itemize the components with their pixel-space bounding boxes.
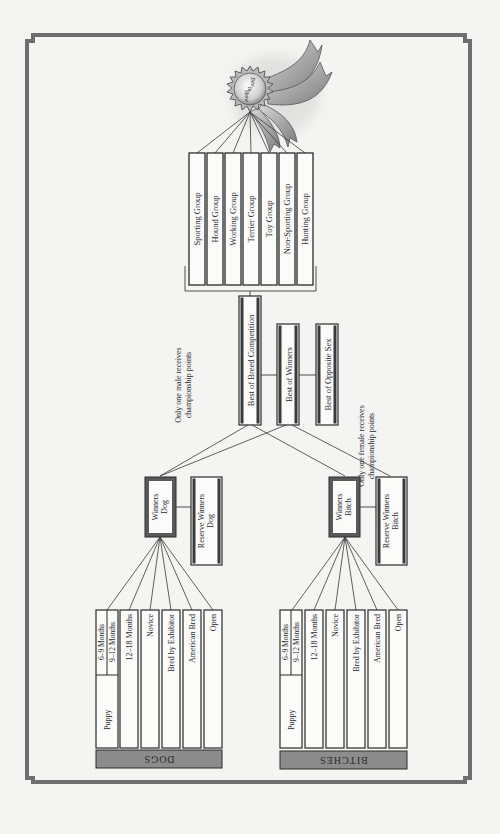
- best-in-show-rosette-icon: Best In Show: [227, 40, 332, 152]
- svg-text:championship points: championship points: [367, 413, 376, 479]
- svg-text:Reserve Winners: Reserve Winners: [197, 494, 206, 548]
- winners-connectors: [160, 425, 390, 476]
- svg-text:Novice: Novice: [146, 614, 155, 638]
- bitch-class-6-9: 6–9 Months: [281, 624, 290, 660]
- dog-class-9-12: 9–12 Months: [108, 622, 117, 662]
- group-toy: Toy Group: [261, 153, 277, 285]
- best-of-winners-label: Best of Winners: [284, 347, 294, 402]
- dog-show-diagram: Best In Show Sporting Group Hound Group …: [0, 0, 500, 834]
- svg-text:Bred by Exhibitor: Bred by Exhibitor: [167, 614, 176, 672]
- dog-class-6-9: 6–9 Months: [97, 624, 106, 660]
- male-note: Only one male receives championship poin…: [174, 347, 193, 422]
- group-label: Hound Group: [210, 196, 220, 243]
- svg-text:Bitch: Bitch: [391, 512, 400, 529]
- svg-text:12–18 Months: 12–18 Months: [125, 614, 134, 660]
- group-terrier: Terrier Group: [243, 153, 259, 285]
- dogs-classes: 6–9 Months 9–12 Months Puppy 12–18 Month…: [96, 610, 222, 748]
- svg-text:Only one female receives: Only one female receives: [357, 405, 366, 487]
- bitches-label: BITCHES: [319, 755, 368, 766]
- svg-text:championship points: championship points: [184, 352, 193, 418]
- group-label: Non-Sporting Group: [282, 184, 292, 255]
- svg-text:Open: Open: [209, 614, 218, 631]
- dog-class-puppy-label: Puppy: [103, 710, 112, 730]
- bitch-class-9-12: 9–12 Months: [292, 622, 301, 662]
- svg-text:Dog: Dog: [160, 500, 169, 514]
- winners-dog-box: Winners Dog: [145, 477, 176, 537]
- group-non-sporting: Non-Sporting Group: [279, 153, 295, 285]
- group-hunting: Hunting Group: [297, 153, 313, 285]
- group-label: Working Group: [228, 192, 238, 245]
- award-line-3: Show: [244, 90, 250, 102]
- svg-text:Bitch: Bitch: [344, 498, 353, 515]
- group-label: Sporting Group: [192, 192, 202, 245]
- bitches-section-band: BITCHES: [280, 751, 407, 769]
- best-of-breed-box: Best of Breed Competition: [239, 296, 261, 425]
- award-line-1: Best: [250, 77, 256, 87]
- group-boxes: Sporting Group Hound Group Working Group…: [189, 153, 313, 285]
- svg-text:American Bred: American Bred: [188, 614, 197, 663]
- svg-text:American Bred: American Bred: [373, 614, 382, 663]
- female-note: Only one female receives championship po…: [357, 405, 376, 487]
- group-working: Working Group: [225, 153, 241, 285]
- svg-text:Only one male receives: Only one male receives: [174, 347, 183, 422]
- svg-text:Winners: Winners: [151, 494, 160, 521]
- reserve-winners-bitch-box: Reserve Winners Bitch: [376, 477, 407, 565]
- best-of-breed-label: Best of Breed Competition: [246, 314, 256, 406]
- dogs-label: DOGS: [143, 754, 174, 765]
- reserve-winners-dog-box: Reserve Winners Dog: [191, 477, 222, 565]
- dogs-section-band: DOGS: [96, 750, 222, 768]
- bitch-class-puppy-label: Puppy: [287, 710, 296, 730]
- best-of-opposite-sex-box: Best of Opposite Sex: [316, 324, 338, 425]
- group-hound: Hound Group: [207, 153, 223, 285]
- svg-text:Dog: Dog: [206, 514, 215, 528]
- group-sporting: Sporting Group: [189, 153, 205, 285]
- svg-text:Winners: Winners: [335, 494, 344, 521]
- svg-text:Bred by Exhibitor: Bred by Exhibitor: [352, 614, 361, 672]
- svg-text:Open: Open: [394, 614, 403, 631]
- svg-text:Novice: Novice: [331, 614, 340, 638]
- best-of-opposite-sex-label: Best of Opposite Sex: [323, 338, 333, 411]
- group-label: Terrier Group: [246, 196, 256, 243]
- svg-text:Reserve Winners: Reserve Winners: [382, 494, 391, 548]
- winners-bitch-box: Winners Bitch: [329, 477, 360, 537]
- group-label: Toy Group: [264, 201, 274, 238]
- bitches-classes: 6–9 Months 9–12 Months Puppy 12–18 Month…: [280, 610, 407, 748]
- group-label: Hunting Group: [300, 193, 310, 245]
- svg-text:12–18 Months: 12–18 Months: [310, 614, 319, 660]
- best-of-winners-box: Best of Winners: [277, 324, 299, 425]
